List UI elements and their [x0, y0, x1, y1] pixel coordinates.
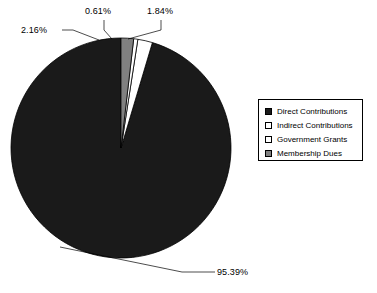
leader-line-government	[104, 20, 112, 39]
legend-item-government-grants[interactable]: Government Grants	[265, 133, 362, 146]
slice-label-indirect-contributions: 2.16%	[21, 25, 47, 36]
legend-swatch-icon-indirect-contributions	[265, 122, 272, 129]
legend-item-direct-contributions[interactable]: Direct Contributions	[265, 105, 362, 118]
legend-label-membership-dues: Membership Dues	[277, 149, 342, 158]
leader-line-membership	[128, 20, 161, 39]
legend-item-indirect-contributions[interactable]: Indirect Contributions	[265, 119, 362, 132]
slice-label-direct-contributions: 95.39%	[217, 267, 248, 278]
slice-label-government-grants: 0.61%	[85, 6, 111, 17]
pie-chart-figure: 2.16% 0.61% 1.84% 95.39% Direct Contribu…	[0, 0, 377, 293]
legend-label-indirect-contributions: Indirect Contributions	[277, 121, 353, 130]
chart-legend: Direct Contributions Indirect Contributi…	[258, 99, 363, 161]
legend-swatch-icon-direct-contributions	[265, 108, 272, 115]
legend-item-membership-dues[interactable]: Membership Dues	[265, 147, 362, 160]
legend-label-government-grants: Government Grants	[277, 135, 347, 144]
legend-swatch-icon-membership-dues	[265, 150, 272, 157]
leader-line-indirect	[62, 30, 99, 40]
legend-swatch-icon-government-grants	[265, 136, 272, 143]
slice-label-membership-dues: 1.84%	[147, 6, 173, 17]
legend-label-direct-contributions: Direct Contributions	[277, 107, 347, 116]
